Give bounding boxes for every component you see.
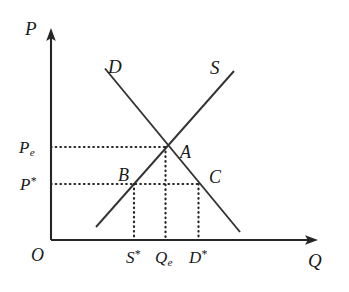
qe-subscript: e bbox=[168, 256, 173, 268]
point-label-c: B bbox=[118, 166, 129, 184]
supply-demand-figure bbox=[0, 0, 349, 292]
price-tick-label-pe: Pe bbox=[19, 139, 35, 158]
dstar-superscript: * bbox=[202, 247, 208, 261]
price-tick-label-pstar: P* bbox=[20, 176, 37, 193]
price-axis bbox=[46, 28, 56, 240]
origin-label: O bbox=[31, 246, 44, 264]
point-label-a: A bbox=[180, 143, 191, 161]
quantity-tick-label-sstar: S* bbox=[126, 249, 141, 266]
quantity-tick-label-qe: Qe bbox=[155, 249, 173, 268]
demand-curve-label: D bbox=[108, 57, 122, 76]
quantity-tick-label-dstar: D* bbox=[189, 249, 208, 266]
sstar-superscript: * bbox=[135, 247, 141, 261]
supply-curve-label: S bbox=[210, 58, 220, 77]
pstar-superscript: * bbox=[31, 174, 37, 188]
quantity-axis-label: Q bbox=[308, 251, 322, 270]
demand-curve bbox=[105, 69, 240, 233]
point-label-b: C bbox=[209, 168, 221, 186]
price-axis-label: P bbox=[25, 19, 37, 38]
diagram-canvas: P Q O D S A C B Pe P* S* Qe D* bbox=[0, 0, 349, 292]
pe-subscript: e bbox=[30, 146, 35, 158]
quantity-axis bbox=[51, 235, 318, 245]
